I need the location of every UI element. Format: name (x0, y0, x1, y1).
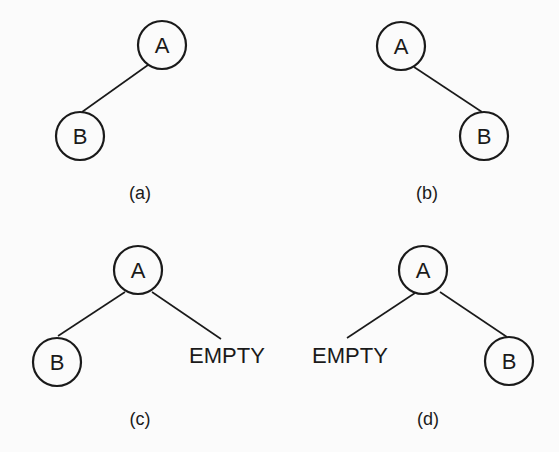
caption-a: (a) (129, 183, 151, 203)
node-d-root-label: A (416, 258, 431, 283)
caption-d: (d) (417, 409, 439, 429)
node-c-left-label: B (50, 350, 65, 375)
node-a-left-label: B (73, 124, 88, 149)
tree-d: A EMPTY B (d) (312, 246, 533, 429)
edge-d-root-right (440, 292, 507, 337)
edge-a-root-left (82, 65, 148, 112)
empty-d-left: EMPTY (312, 343, 388, 368)
empty-c-right: EMPTY (189, 343, 265, 368)
edge-c-root-left (58, 292, 125, 336)
figure-svg: A B (a) A B (b) A B EMPTY (c) (0, 0, 559, 452)
binary-tree-figure: A B (a) A B (b) A B EMPTY (c) (0, 0, 559, 452)
caption-c: (c) (130, 409, 151, 429)
tree-a: A B (a) (56, 21, 186, 203)
caption-b: (b) (416, 183, 438, 203)
node-a-root-label: A (155, 33, 170, 58)
tree-b: A B (b) (377, 22, 508, 203)
edge-c-root-right (152, 292, 221, 339)
node-b-right-label: B (477, 124, 492, 149)
node-c-root-label: A (131, 258, 146, 283)
node-d-right-label: B (502, 349, 517, 374)
edge-d-root-left (347, 293, 415, 338)
node-b-root-label: A (394, 34, 409, 59)
tree-c: A B EMPTY (c) (33, 246, 265, 429)
edge-b-root-right (414, 67, 482, 112)
